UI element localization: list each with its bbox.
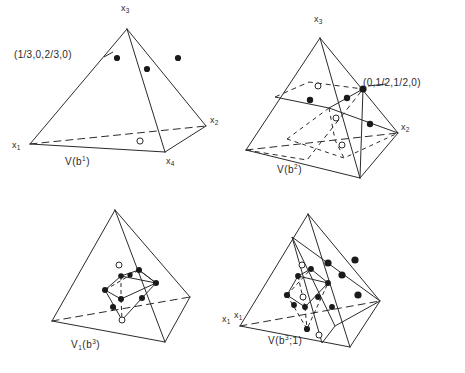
edge-x4-x2 bbox=[165, 126, 206, 152]
panel-tetrahedron-4: x1 V(b3;1) bbox=[232, 187, 465, 373]
point-filled bbox=[175, 55, 181, 61]
point-filled bbox=[102, 287, 108, 293]
point-filled bbox=[110, 304, 116, 310]
vertex-label-x1: x1 bbox=[234, 310, 243, 321]
point-filled bbox=[329, 304, 335, 310]
vertex-label-x1: x1 bbox=[12, 140, 21, 151]
octa-hidden-a bbox=[105, 270, 139, 290]
octa-bottom-edge bbox=[142, 283, 156, 298]
panel-tetrahedron-1: (1/3,0,2/3,0) x3 x1 x2 x4 V(b1) bbox=[0, 0, 232, 187]
panel-1-caption: V(b1) bbox=[65, 155, 90, 167]
panel-3-caption: V1(b3) bbox=[71, 338, 100, 351]
point-filled bbox=[291, 302, 297, 308]
edge-x3-x2 bbox=[115, 210, 190, 297]
panel-tetrahedron-3: x1 V1(b3) bbox=[0, 187, 232, 373]
point-filled-outer bbox=[338, 271, 345, 278]
figure-root: (1/3,0,2/3,0) x3 x1 x2 x4 V(b1) bbox=[0, 0, 465, 373]
panel-2-graphic bbox=[232, 0, 465, 187]
vertex-label-x4: x4 bbox=[166, 156, 175, 167]
edge-x1-x4 bbox=[246, 150, 360, 178]
edge-x4-x2 bbox=[350, 301, 380, 347]
edge-x3-x4 bbox=[320, 38, 360, 178]
edge-x4-x2 bbox=[165, 297, 190, 342]
point-open-center bbox=[300, 294, 306, 300]
edge-x1-x4 bbox=[30, 144, 165, 152]
edge-x3-x1 bbox=[30, 29, 127, 144]
octa-bottom-front bbox=[105, 290, 142, 320]
panel-4-caption: V(b3;1) bbox=[268, 334, 302, 346]
point-open bbox=[137, 138, 143, 144]
point-filled bbox=[118, 273, 124, 279]
point-filled bbox=[308, 266, 314, 272]
coord-label-2: (0,1/2,1/2,0) bbox=[363, 77, 421, 88]
point-open bbox=[333, 115, 339, 121]
point-filled bbox=[325, 280, 331, 286]
panel-3-graphic bbox=[0, 187, 232, 373]
edge-x3-x2 bbox=[308, 214, 380, 301]
section-line-b bbox=[292, 237, 380, 301]
point-open-base bbox=[119, 317, 125, 323]
section-line-d bbox=[335, 301, 380, 326]
point-open bbox=[339, 142, 345, 148]
point-filled bbox=[127, 272, 132, 277]
point-open bbox=[315, 83, 321, 89]
vertex-label-x3: x3 bbox=[314, 14, 323, 25]
edge-x4-x2 bbox=[360, 133, 398, 178]
panel-tetrahedron-2: (0,1/2,1/2,0) x3 x2 V(b2) bbox=[232, 0, 465, 187]
panel-1-graphic bbox=[0, 0, 232, 187]
point-filled bbox=[295, 273, 301, 279]
point-filled-outer bbox=[354, 291, 361, 298]
inner-dashed-b bbox=[287, 108, 329, 139]
marked-points-filled bbox=[114, 55, 181, 72]
point-filled bbox=[153, 280, 159, 286]
point-filled-outer bbox=[324, 259, 331, 266]
edge-x3-x1 bbox=[246, 38, 320, 150]
inner-solid-b bbox=[360, 89, 363, 178]
edge-x3-x1 bbox=[240, 214, 308, 326]
vertex-label-x3: x3 bbox=[121, 3, 130, 14]
point-filled bbox=[136, 267, 142, 273]
point-filled bbox=[118, 296, 124, 302]
edge-x3-x1 bbox=[52, 210, 115, 321]
point-filled bbox=[139, 295, 145, 301]
point-filled bbox=[284, 292, 290, 298]
octa-equator-front bbox=[105, 276, 156, 299]
point-filled bbox=[304, 326, 310, 332]
vertex-label-x1: x1 bbox=[222, 314, 231, 325]
point-filled bbox=[367, 121, 373, 127]
vertex-label-x2: x2 bbox=[401, 122, 410, 133]
point-filled bbox=[114, 55, 120, 61]
edge-x1-x2-hidden bbox=[30, 126, 206, 144]
point-filled-outer bbox=[351, 256, 358, 263]
edge-x3-x2 bbox=[127, 29, 206, 126]
edge-x1-x2-hidden bbox=[240, 301, 380, 326]
section-line-e bbox=[322, 326, 335, 343]
panel-2-caption: V(b2) bbox=[277, 163, 302, 175]
point-open-base bbox=[316, 332, 322, 338]
panel-4-graphic bbox=[232, 187, 465, 373]
point-filled bbox=[315, 294, 321, 300]
edge-x1-x4 bbox=[52, 321, 165, 342]
point-open-apex bbox=[116, 262, 122, 268]
point-filled bbox=[302, 304, 308, 310]
point-filled bbox=[144, 66, 150, 72]
point-filled bbox=[307, 97, 313, 103]
point-filled bbox=[344, 95, 350, 101]
vertex-label-x2: x2 bbox=[210, 115, 219, 126]
point-open-apex bbox=[299, 262, 305, 268]
marked-points-open bbox=[137, 138, 143, 144]
coord-label-1: (1/3,0,2/3,0) bbox=[14, 49, 72, 60]
